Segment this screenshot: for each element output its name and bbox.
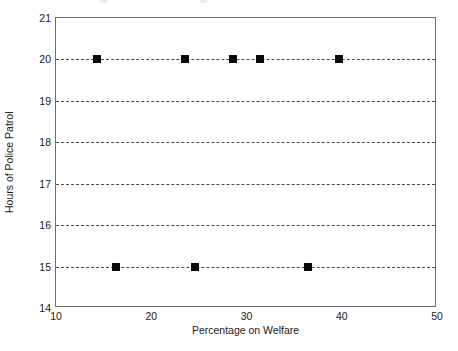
plot-area: 1415161718192021 1020304050 bbox=[55, 17, 436, 307]
data-point bbox=[335, 55, 343, 63]
x-tick-label-20: 20 bbox=[145, 311, 157, 322]
y-axis-title: Hours of Police Patrol bbox=[0, 17, 18, 307]
gridline-y-17 bbox=[56, 184, 435, 185]
y-tick-label-15: 15 bbox=[39, 261, 51, 272]
top-crop-artifact bbox=[60, 0, 260, 3]
y-tick-label-20: 20 bbox=[39, 54, 51, 65]
gridline-y-19 bbox=[56, 101, 435, 102]
y-tick-label-16: 16 bbox=[39, 220, 51, 231]
x-axis-title: Percentage on Welfare bbox=[55, 325, 436, 336]
y-tick-label-19: 19 bbox=[39, 96, 51, 107]
data-point bbox=[112, 263, 120, 271]
x-tick-label-40: 40 bbox=[336, 311, 348, 322]
crop-artifact-mark bbox=[200, 0, 207, 3]
y-tick-label-21: 21 bbox=[39, 13, 51, 24]
x-tick-label-10: 10 bbox=[50, 311, 62, 322]
x-tick-label-50: 50 bbox=[431, 311, 443, 322]
data-point bbox=[191, 263, 199, 271]
y-axis-title-text: Hours of Police Patrol bbox=[4, 111, 15, 213]
y-tick-label-17: 17 bbox=[39, 178, 51, 189]
data-point bbox=[256, 55, 264, 63]
chart-figure: Hours of Police Patrol 1415161718192021 … bbox=[0, 0, 458, 351]
gridline-y-18 bbox=[56, 142, 435, 143]
crop-artifact-mark bbox=[100, 0, 107, 3]
data-point bbox=[181, 55, 189, 63]
y-tick-label-18: 18 bbox=[39, 137, 51, 148]
data-point bbox=[304, 263, 312, 271]
data-point bbox=[93, 55, 101, 63]
gridline-y-16 bbox=[56, 225, 435, 226]
gridline-y-20 bbox=[56, 59, 435, 60]
x-tick-label-30: 30 bbox=[241, 311, 253, 322]
data-point bbox=[229, 55, 237, 63]
